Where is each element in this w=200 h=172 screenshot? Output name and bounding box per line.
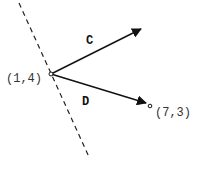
vector-d-label: D <box>82 95 89 109</box>
target-point-marker <box>148 104 152 108</box>
vector-c-arrow <box>51 29 141 74</box>
target-point-label: (7,3) <box>155 106 191 120</box>
vector-diagram: C D (1,4) (7,3) <box>0 0 200 172</box>
vector-d-arrow <box>51 74 146 103</box>
vector-c-label: C <box>86 34 93 48</box>
origin-point-label: (1,4) <box>6 72 42 86</box>
origin-point-marker <box>49 72 53 76</box>
